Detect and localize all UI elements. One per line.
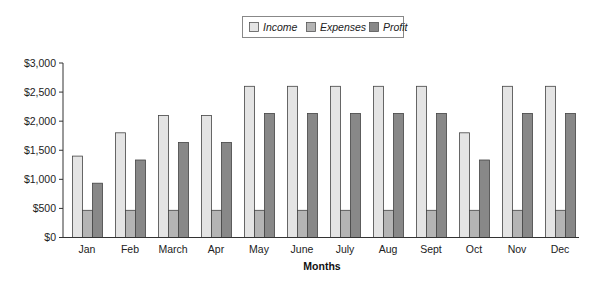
bar-profit-july [351, 113, 361, 237]
x-tick-label: Jan [79, 243, 96, 255]
x-tick-label: Aug [379, 243, 398, 255]
bar-profit-oct [480, 160, 490, 238]
x-tick-label: Nov [508, 243, 527, 255]
y-tick-label: $1,000 [24, 173, 56, 185]
y-tick-label: $1,500 [24, 144, 56, 156]
bar-income-oct [460, 133, 470, 238]
bar-expenses-nov [513, 210, 523, 237]
bar-profit-sept [437, 113, 447, 237]
y-tick-label: $2,000 [24, 115, 56, 127]
bar-expenses-feb [126, 210, 136, 237]
bar-expenses-jan [83, 210, 93, 237]
x-tick-label: Apr [208, 243, 225, 255]
x-tick-label: June [291, 243, 314, 255]
bar-profit-feb [136, 160, 146, 238]
x-axis-title: Months [303, 260, 340, 272]
bar-profit-june [308, 113, 318, 237]
legend-swatch-profit [370, 23, 379, 32]
y-tick-label: $3,000 [24, 57, 56, 69]
x-axis: JanFebMarchAprMayJuneJulyAugSeptOctNovDe… [63, 238, 579, 255]
legend-swatch-income [250, 23, 259, 32]
x-tick-label: March [158, 243, 187, 255]
legend: IncomeExpensesProfit [243, 17, 409, 38]
bar-income-sept [417, 86, 427, 237]
bar-chart: IncomeExpensesProfit $0$500$1,000$1,500$… [0, 0, 608, 283]
bar-expenses-may [255, 210, 265, 237]
bar-expenses-oct [470, 210, 480, 237]
y-tick-label: $2,500 [24, 86, 56, 98]
y-tick-label: $500 [33, 202, 57, 214]
legend-swatch-expenses [307, 23, 316, 32]
x-tick-label: Feb [121, 243, 139, 255]
legend-label-profit: Profit [383, 21, 409, 33]
bar-profit-dec [566, 113, 576, 237]
x-tick-label: May [249, 243, 270, 255]
bar-income-apr [202, 115, 212, 237]
x-tick-label: Sept [420, 243, 442, 255]
bar-income-aug [374, 86, 384, 237]
bar-income-june [288, 86, 298, 237]
legend-label-expenses: Expenses [320, 21, 367, 33]
bar-profit-apr [222, 143, 232, 238]
bars-group [73, 86, 576, 237]
bar-profit-jan [93, 183, 103, 237]
bar-profit-nov [523, 113, 533, 237]
y-axis: $0$500$1,000$1,500$2,000$2,500$3,000 [24, 57, 63, 244]
bar-income-july [331, 86, 341, 237]
bar-income-march [159, 115, 169, 237]
bar-expenses-aug [384, 210, 394, 237]
bar-income-feb [116, 133, 126, 238]
bar-income-nov [503, 86, 513, 237]
bar-income-dec [546, 86, 556, 237]
bar-expenses-july [341, 210, 351, 237]
bar-expenses-march [169, 210, 179, 237]
bar-profit-aug [394, 113, 404, 237]
bar-expenses-june [298, 210, 308, 237]
bar-income-may [245, 86, 255, 237]
legend-label-income: Income [263, 21, 298, 33]
bar-expenses-apr [212, 210, 222, 237]
x-tick-label: Oct [466, 243, 482, 255]
bar-income-jan [73, 156, 83, 237]
bar-profit-may [265, 113, 275, 237]
y-tick-label: $0 [44, 231, 56, 243]
x-tick-label: Dec [551, 243, 570, 255]
bar-profit-march [179, 143, 189, 238]
x-tick-label: July [336, 243, 355, 255]
bar-expenses-sept [427, 210, 437, 237]
bar-expenses-dec [556, 210, 566, 237]
